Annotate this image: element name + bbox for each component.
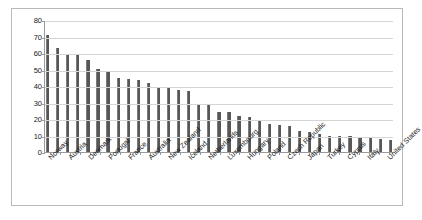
y-axis-tick-label: 70 (20, 34, 42, 42)
bar (268, 124, 271, 152)
y-axis-tick-mark (42, 87, 45, 88)
bar (86, 60, 89, 152)
gridline (45, 71, 393, 72)
gridline (45, 87, 393, 88)
gridline (45, 120, 393, 121)
y-axis-tick-label: 60 (20, 50, 42, 58)
y-axis-tick-mark (42, 54, 45, 55)
bar (46, 35, 49, 152)
chart-container: 01020304050607080 NorwayAustriaDenmarkPo… (11, 8, 403, 206)
y-axis-tick-label: 30 (20, 100, 42, 108)
y-axis: 01020304050607080 (18, 9, 42, 205)
y-axis-tick-label: 10 (20, 133, 42, 141)
y-axis-tick-mark (42, 104, 45, 105)
y-axis-tick-label: 20 (20, 116, 42, 124)
y-axis-tick-label: 0 (20, 149, 42, 157)
y-axis-tick-label: 50 (20, 67, 42, 75)
y-axis-tick-label: 40 (20, 83, 42, 91)
gridline (45, 21, 393, 22)
bar (96, 69, 99, 152)
y-axis-tick-mark (42, 38, 45, 39)
y-axis-tick-mark (42, 21, 45, 22)
x-axis-labels: NorwayAustriaDenmarkPortugalFranceAustra… (44, 154, 392, 209)
chart-plot-wrapper: 01020304050607080 NorwayAustriaDenmarkPo… (12, 9, 402, 205)
y-axis-tick-mark (42, 71, 45, 72)
gridline (45, 54, 393, 55)
bar (147, 83, 150, 152)
gridline (45, 137, 393, 138)
y-axis-tick-mark (42, 137, 45, 138)
gridline (45, 38, 393, 39)
y-axis-tick-label: 80 (20, 17, 42, 25)
y-axis-tick-mark (42, 120, 45, 121)
gridline (45, 104, 393, 105)
plot-area (44, 21, 393, 153)
